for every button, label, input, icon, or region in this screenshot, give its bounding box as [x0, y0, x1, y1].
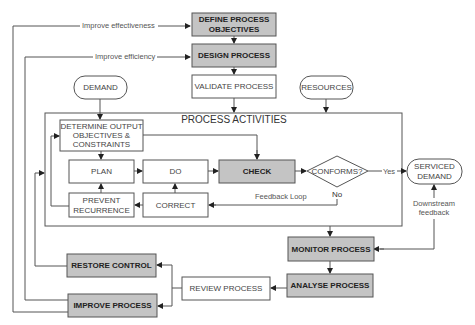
svg-text:CHECK: CHECK [243, 167, 272, 176]
do-node[interactable]: DO [143, 160, 208, 183]
svg-text:PLAN: PLAN [91, 167, 112, 176]
downstream-label-2: feedback [419, 208, 450, 217]
svg-text:CONSTRAINTS: CONSTRAINTS [73, 140, 130, 149]
analyse-process-node[interactable]: ANALYSE PROCESS [287, 274, 373, 297]
correct-node[interactable]: CORRECT [143, 193, 208, 217]
plan-node[interactable]: PLAN [69, 160, 134, 183]
svg-text:REVIEW PROCESS: REVIEW PROCESS [190, 284, 263, 293]
yes-label: Yes [383, 167, 395, 176]
svg-text:OBJECTIVES: OBJECTIVES [209, 25, 260, 34]
improve-efficiency-label: Improve efficiency [95, 52, 156, 61]
restore-control-node[interactable]: RESTORE CONTROL [67, 254, 156, 277]
svg-text:OBJECTIVES &: OBJECTIVES & [73, 131, 131, 140]
feedback-loop-label: Feedback Loop [255, 192, 307, 201]
svg-text:CORRECT: CORRECT [156, 201, 196, 210]
demand-node[interactable]: DEMAND [74, 76, 127, 99]
svg-text:VALIDATE PROCESS: VALIDATE PROCESS [195, 82, 274, 91]
svg-text:SERVICED: SERVICED [414, 162, 455, 171]
svg-text:RESTORE CONTROL: RESTORE CONTROL [71, 261, 151, 270]
check-node[interactable]: CHECK [219, 160, 295, 183]
svg-text:IMPROVE PROCESS: IMPROVE PROCESS [73, 301, 152, 310]
svg-text:PREVENT: PREVENT [83, 196, 121, 205]
svg-text:DETERMINE OUTPUT: DETERMINE OUTPUT [60, 122, 142, 131]
serviced-demand-node[interactable]: SERVICED DEMAND [407, 159, 462, 184]
prevent-recurrence-node[interactable]: PREVENT RECURRENCE [69, 193, 134, 217]
svg-text:RECURRENCE: RECURRENCE [73, 206, 129, 215]
monitor-process-node[interactable]: MONITOR PROCESS [288, 237, 374, 261]
process-diagram: Improve effectiveness Improve efficiency… [0, 0, 475, 325]
determine-output-node[interactable]: DETERMINE OUTPUT OBJECTIVES & CONSTRAINT… [60, 120, 143, 151]
svg-text:ANALYSE PROCESS: ANALYSE PROCESS [291, 281, 371, 290]
review-process-node[interactable]: REVIEW PROCESS [182, 277, 270, 300]
svg-text:DO: DO [170, 167, 182, 176]
no-label: No [332, 190, 343, 199]
svg-text:DEMAND: DEMAND [83, 83, 118, 92]
process-activities-title: PROCESS ACTIVITIES [181, 114, 287, 125]
svg-text:DEMAND: DEMAND [417, 172, 452, 181]
downstream-label-1: Downstream [413, 199, 455, 208]
validate-process-node[interactable]: VALIDATE PROCESS [192, 75, 276, 98]
svg-text:MONITOR PROCESS: MONITOR PROCESS [292, 245, 372, 254]
improve-effectiveness-label: Improve effectiveness [82, 21, 155, 30]
resources-node[interactable]: RESOURCES [300, 76, 353, 99]
improve-process-node[interactable]: IMPROVE PROCESS [68, 294, 157, 317]
svg-text:RESOURCES: RESOURCES [301, 83, 352, 92]
svg-text:DEFINE PROCESS: DEFINE PROCESS [199, 15, 270, 24]
design-process-node[interactable]: DESIGN PROCESS [192, 44, 276, 67]
define-objectives-node[interactable]: DEFINE PROCESS OBJECTIVES [192, 13, 276, 36]
svg-text:CONFORMS?: CONFORMS? [311, 167, 363, 176]
svg-text:DESIGN PROCESS: DESIGN PROCESS [198, 51, 271, 60]
